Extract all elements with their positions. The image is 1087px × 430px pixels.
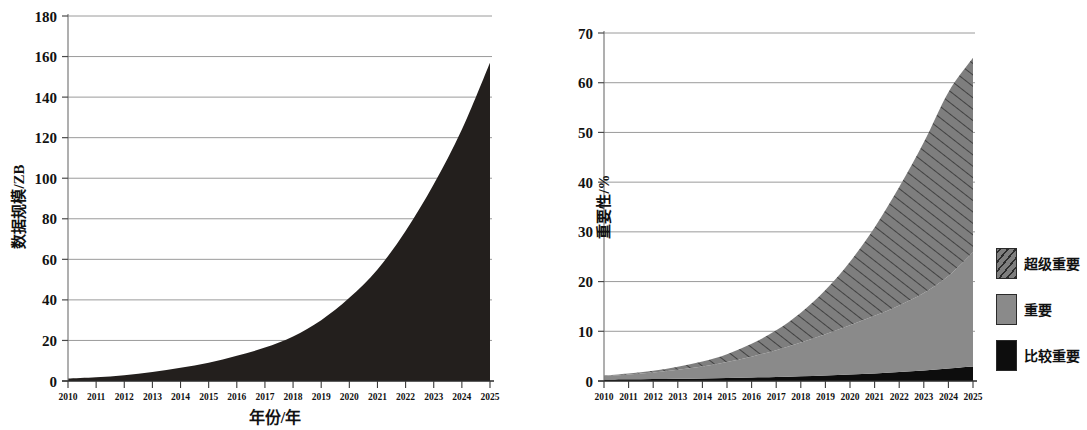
- svg-text:2022: 2022: [890, 392, 909, 402]
- svg-text:0: 0: [586, 374, 594, 390]
- svg-text:2025: 2025: [964, 392, 983, 402]
- svg-text:40: 40: [42, 292, 57, 308]
- svg-text:120: 120: [35, 130, 58, 146]
- svg-text:2021: 2021: [368, 392, 387, 402]
- svg-text:60: 60: [42, 252, 57, 268]
- svg-text:2018: 2018: [284, 392, 303, 402]
- figure-page: 0204060801001201401601802010201120122013…: [0, 0, 1087, 430]
- svg-text:180: 180: [35, 9, 58, 25]
- svg-text:2024: 2024: [452, 392, 471, 402]
- x-axis-title-left: 年份/年: [60, 404, 490, 428]
- y-axis-title-left: 数据规模/ZB: [7, 152, 28, 262]
- svg-text:2012: 2012: [644, 392, 663, 402]
- svg-text:2010: 2010: [595, 392, 614, 402]
- legend-swatch-black-icon: [996, 340, 1017, 371]
- svg-text:2024: 2024: [939, 392, 958, 402]
- svg-text:2020: 2020: [340, 392, 359, 402]
- svg-text:80: 80: [42, 211, 57, 227]
- svg-text:2025: 2025: [481, 392, 500, 402]
- svg-text:2015: 2015: [718, 392, 737, 402]
- legend-item-important: 重要: [996, 286, 1087, 332]
- legend-item-super-important: 超级重要: [996, 240, 1087, 286]
- svg-text:50: 50: [578, 125, 593, 141]
- legend-label-important: 重要: [1024, 299, 1052, 319]
- svg-text:10: 10: [578, 324, 593, 340]
- svg-text:2010: 2010: [59, 392, 78, 402]
- legend-label-super-important: 超级重要: [1024, 253, 1080, 273]
- svg-text:2011: 2011: [619, 392, 638, 402]
- svg-text:140: 140: [35, 90, 58, 106]
- svg-text:2015: 2015: [199, 392, 218, 402]
- y-axis-title-right: 重要性/%: [592, 152, 613, 262]
- svg-text:2013: 2013: [143, 392, 162, 402]
- svg-text:2022: 2022: [396, 392, 415, 402]
- svg-text:2017: 2017: [767, 392, 786, 402]
- svg-text:2020: 2020: [841, 392, 860, 402]
- svg-text:2014: 2014: [693, 392, 712, 402]
- svg-text:2021: 2021: [865, 392, 884, 402]
- svg-text:2016: 2016: [742, 392, 761, 402]
- svg-text:2023: 2023: [424, 392, 443, 402]
- svg-text:60: 60: [578, 75, 593, 91]
- legend-swatch-hatch-icon: [996, 248, 1017, 279]
- svg-text:160: 160: [35, 49, 58, 65]
- chart-canvas-left: 0204060801001201401601802010201120122013…: [0, 0, 540, 430]
- chart-data-volume: 0204060801001201401601802010201120122013…: [0, 0, 540, 430]
- svg-text:0: 0: [50, 374, 58, 390]
- chart-legend: 超级重要 重要 比较重要: [996, 240, 1087, 378]
- svg-text:20: 20: [42, 333, 57, 349]
- svg-text:2014: 2014: [171, 392, 190, 402]
- legend-swatch-gray-icon: [996, 294, 1017, 325]
- svg-text:2016: 2016: [227, 392, 246, 402]
- svg-text:70: 70: [578, 26, 593, 42]
- svg-text:2019: 2019: [312, 392, 331, 402]
- svg-text:100: 100: [35, 171, 58, 187]
- svg-text:2018: 2018: [791, 392, 810, 402]
- legend-item-fairly-important: 比较重要: [996, 332, 1087, 378]
- svg-text:2019: 2019: [816, 392, 835, 402]
- svg-text:2017: 2017: [255, 392, 274, 402]
- svg-text:2012: 2012: [115, 392, 134, 402]
- svg-text:20: 20: [578, 274, 593, 290]
- svg-text:2013: 2013: [668, 392, 687, 402]
- svg-text:2023: 2023: [914, 392, 933, 402]
- svg-text:2011: 2011: [87, 392, 106, 402]
- legend-label-fairly-important: 比较重要: [1024, 345, 1080, 365]
